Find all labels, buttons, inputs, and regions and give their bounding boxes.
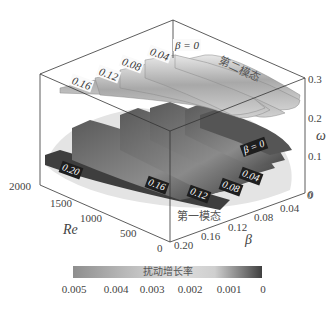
omega-axis-title: ω [316,128,326,144]
colorbar-tick-0001: 0.001 [217,283,242,295]
colorbar-tick-0003: 0.003 [140,283,165,295]
beta-tick-020: 0.20 [174,240,193,251]
colorbar-tick-0005: 0.005 [62,283,87,295]
re-axis-title: Re [63,222,78,238]
omega-tick-01: 0.1 [308,151,322,162]
omega-tick-03: 0.3 [308,74,322,85]
colorbar-tick-0002: 0.002 [178,283,203,295]
colorbar-tick-0004: 0.004 [104,283,129,295]
mode1-label: 第一模态 [177,207,221,223]
re-tick-1500: 1500 [50,198,72,209]
colorbar: 扰动增长率 [73,266,262,278]
beta-tick-008: 0.08 [254,212,273,223]
beta-tick-004: 0.04 [280,203,299,214]
colorbar-title: 扰动增长率 [73,266,262,278]
beta-axis-title: β [245,232,252,248]
re-tick-1000: 1000 [80,213,102,224]
omega-tick-0: 0 [308,189,314,200]
beta-tick-016: 0.16 [201,231,220,242]
re-tick-2000: 2000 [9,181,31,192]
colorbar-tick-0: 0 [260,283,266,295]
re-tick-500: 500 [120,228,137,239]
omega-tick-02: 0.2 [308,113,322,124]
re-tick-0: 0 [157,243,163,254]
mode2-beta-label-0: β = 0 [173,39,201,51]
